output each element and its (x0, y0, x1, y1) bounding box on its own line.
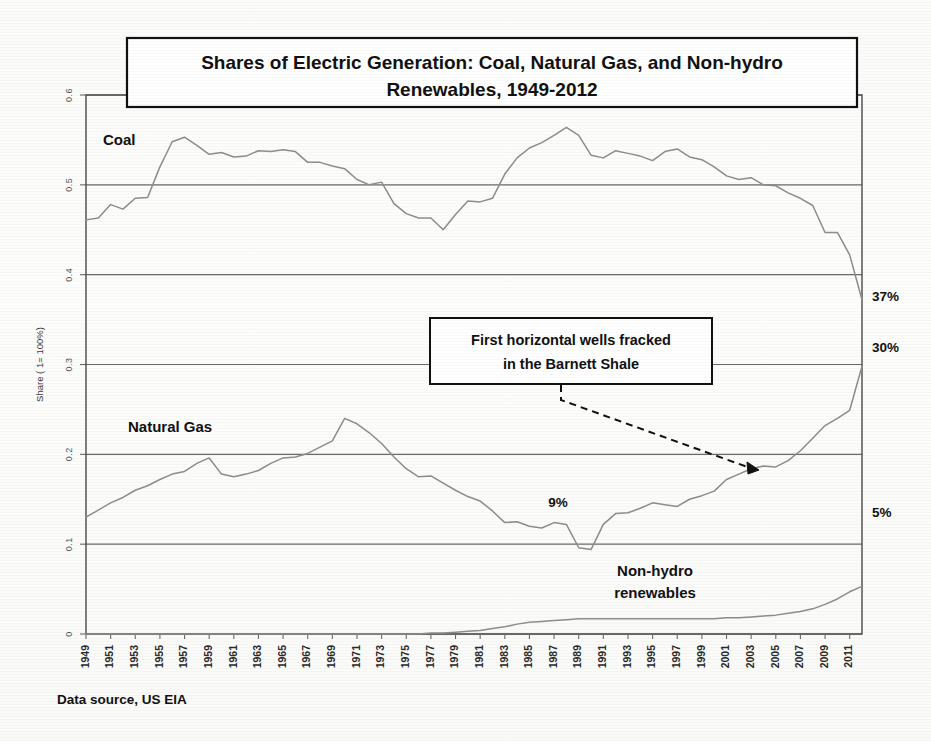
series-label-coal: Coal (103, 131, 136, 148)
y-axis-tick-label: 0.6 (64, 88, 74, 102)
series-label-renewables-line1: Non-hydro (617, 562, 693, 579)
chart-figure: 00.10.20.30.40.50.6Share ( 1= 100%)19491… (0, 0, 931, 741)
x-axis-tick-label: 2003 (744, 645, 756, 669)
x-axis-tick-label: 1965 (276, 645, 288, 669)
x-axis-tick-label: 1991 (596, 645, 608, 669)
chart-title-line-2: Renewables, 1949-2012 (386, 79, 597, 100)
value-callout-renewables-end: 5% (872, 505, 892, 520)
x-axis-tick-label: 1973 (374, 645, 386, 669)
annotation-line-2: in the Barnett Shale (503, 356, 639, 372)
chart-canvas: 00.10.20.30.40.50.6Share ( 1= 100%)19491… (0, 0, 931, 741)
annotation-line-1: First horizontal wells fracked (471, 332, 671, 348)
x-axis-tick-label: 1955 (153, 645, 165, 669)
x-axis-tick-label: 1971 (350, 645, 362, 669)
x-axis-tick-label: 1951 (103, 645, 115, 669)
x-axis-tick-label: 1977 (424, 645, 436, 669)
x-axis-tick-label: 2007 (793, 645, 805, 669)
y-axis-tick-label: 0.1 (64, 537, 74, 551)
x-axis-tick-label: 1953 (128, 645, 140, 669)
y-axis-tick-label: 0.4 (64, 268, 74, 282)
series-label-natural-gas: Natural Gas (128, 418, 212, 435)
x-axis-tick-label: 1975 (399, 645, 411, 669)
x-axis-tick-label: 1981 (473, 645, 485, 669)
x-axis-tick-label: 1999 (695, 645, 707, 669)
x-axis-tick-label: 1969 (325, 645, 337, 669)
series-line-non-hydro-renewables (86, 586, 862, 634)
y-axis-tick-label: 0.2 (64, 447, 74, 461)
x-axis-tick-label: 1997 (670, 645, 682, 669)
x-axis-tick-label: 1961 (227, 645, 239, 669)
x-axis-tick-label: 1979 (448, 645, 460, 669)
x-axis-tick-label: 2005 (769, 645, 781, 669)
y-axis-title: Share ( 1= 100%) (34, 327, 45, 402)
x-axis-tick-label: 1967 (300, 645, 312, 669)
x-axis-tick-label: 2001 (719, 645, 731, 669)
annotation-leader-line (561, 385, 753, 469)
x-axis-tick-label: 1963 (251, 645, 263, 669)
chart-title-line-1: Shares of Electric Generation: Coal, Nat… (201, 52, 783, 73)
x-axis-tick-label: 2009 (818, 645, 830, 669)
y-axis-tick-label: 0.5 (64, 178, 74, 192)
series-line-coal (86, 127, 862, 299)
value-callout-gas-end: 30% (872, 340, 899, 355)
data-source-note: Data source, US EIA (57, 692, 187, 707)
x-axis-tick-label: 1987 (547, 645, 559, 669)
annotation-box[interactable] (430, 318, 712, 384)
y-axis-tick-label: 0 (64, 631, 74, 637)
series-label-renewables-line2: renewables (614, 584, 696, 601)
x-axis-tick-label: 1959 (202, 645, 214, 669)
x-axis-tick-label: 1957 (177, 645, 189, 669)
x-axis-tick-label: 1989 (571, 645, 583, 669)
x-axis-tick-label: 1949 (79, 645, 91, 669)
x-axis-tick-label: 1985 (522, 645, 534, 669)
value-callout-coal-end: 37% (872, 289, 899, 304)
x-axis-tick-label: 1995 (645, 645, 657, 669)
x-axis-tick-label: 2011 (842, 645, 854, 668)
value-callout-gas-min: 9% (548, 495, 568, 510)
x-axis-tick-label: 1983 (498, 645, 510, 669)
y-axis-tick-label: 0.3 (64, 357, 74, 371)
series-line-natural-gas (86, 366, 862, 549)
x-axis-tick-label: 1993 (621, 645, 633, 669)
